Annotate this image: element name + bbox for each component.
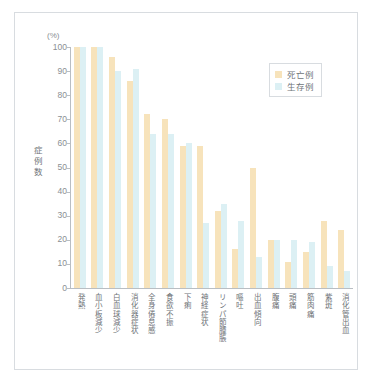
x-axis-tick-label: 発熱 xyxy=(74,293,85,310)
y-axis-tick-label: 60 xyxy=(45,138,67,148)
x-axis-tick-label: 全身倦怠感 xyxy=(145,293,156,335)
bar-alive xyxy=(274,240,280,288)
chart-plot-area: (%) 症例数 0102030405060708090100 発熱血小板減少白血… xyxy=(15,13,359,371)
x-axis-tick-label: 消化管出血 xyxy=(339,293,350,335)
y-axis-tick-label: 100 xyxy=(45,42,67,52)
y-axis-tick-mark xyxy=(66,264,70,265)
bar-alive xyxy=(168,134,174,288)
y-axis-tick-mark xyxy=(66,119,70,120)
chart-legend: 死亡例 生存例 xyxy=(269,63,322,97)
y-axis-tick-mark xyxy=(66,71,70,72)
bar-group xyxy=(127,47,139,288)
legend-item-alive: 生存例 xyxy=(275,80,314,92)
y-axis-tick-label: 50 xyxy=(45,162,67,172)
bar-alive xyxy=(256,257,262,288)
x-axis-tick-label: 神経症状 xyxy=(198,293,209,326)
bar-alive xyxy=(327,266,333,288)
bar-alive xyxy=(309,242,315,288)
y-axis-tick-label: 20 xyxy=(45,234,67,244)
bar-alive xyxy=(238,221,244,288)
y-axis-unit-label: (%) xyxy=(47,31,59,40)
bar-group xyxy=(91,47,103,288)
bar-group xyxy=(180,47,192,288)
legend-label-alive: 生存例 xyxy=(287,80,314,92)
bar-group xyxy=(232,47,244,288)
chart-figure: (%) 症例数 0102030405060708090100 発熱血小板減少白血… xyxy=(14,12,358,370)
bar-group xyxy=(197,47,209,288)
y-axis-tick-mark xyxy=(66,288,70,289)
x-axis-tick-label: 腹痛 xyxy=(268,293,279,310)
bar-alive xyxy=(291,240,297,288)
x-axis-tick-label: 嘔吐 xyxy=(233,293,244,310)
y-axis-tick-mark xyxy=(66,95,70,96)
y-axis-title: 症例数 xyxy=(32,145,44,178)
y-axis-tick-label: 10 xyxy=(45,258,67,268)
bar-alive xyxy=(133,69,139,288)
y-axis-tick-mark xyxy=(66,192,70,193)
bar-alive xyxy=(115,71,121,288)
x-axis-labels: 発熱血小板減少白血球減少消化器症状全身倦怠感食欲不振下痢神経症状リンパ節腫脹嘔吐… xyxy=(71,293,355,371)
x-axis-tick-label: 血小板減少 xyxy=(92,293,103,335)
x-axis-tick-label: リンパ節腫脹 xyxy=(215,293,226,343)
bar-alive xyxy=(150,134,156,288)
y-axis-tick-label: 0 xyxy=(45,283,67,293)
x-axis-tick-label: 紫斑 xyxy=(321,293,332,310)
bar-alive xyxy=(221,204,227,288)
y-axis-tick-label: 40 xyxy=(45,186,67,196)
x-axis-line xyxy=(70,288,353,289)
legend-swatch-dead xyxy=(275,71,282,78)
x-axis-tick-label: 食欲不振 xyxy=(162,293,173,326)
legend-swatch-alive xyxy=(275,83,282,90)
bar-alive xyxy=(203,223,209,288)
bar-group xyxy=(74,47,86,288)
bar-group xyxy=(215,47,227,288)
bar-group xyxy=(338,47,350,288)
bar-alive xyxy=(80,47,86,288)
x-axis-tick-label: 出血傾向 xyxy=(251,293,262,326)
y-axis-tick-mark xyxy=(66,216,70,217)
y-axis-tick-label: 80 xyxy=(45,90,67,100)
bar-group xyxy=(144,47,156,288)
y-axis-tick-mark xyxy=(66,240,70,241)
x-axis-tick-label: 下痢 xyxy=(180,293,191,310)
y-axis-tick-label: 70 xyxy=(45,114,67,124)
legend-label-dead: 死亡例 xyxy=(287,68,314,80)
bar-group xyxy=(321,47,333,288)
bar-group xyxy=(109,47,121,288)
y-axis-tick-label: 90 xyxy=(45,66,67,76)
x-axis-tick-label: 頭痛 xyxy=(286,293,297,310)
bar-group xyxy=(250,47,262,288)
bar-alive xyxy=(344,271,350,288)
x-axis-tick-label: 消化器症状 xyxy=(127,293,138,335)
bar-group xyxy=(162,47,174,288)
y-axis-tick-mark xyxy=(66,168,70,169)
legend-item-dead: 死亡例 xyxy=(275,68,314,80)
bar-alive xyxy=(186,143,192,288)
x-axis-tick-label: 白血球減少 xyxy=(110,293,121,335)
y-axis-tick-mark xyxy=(66,47,70,48)
bar-alive xyxy=(97,47,103,288)
x-axis-tick-label: 筋肉痛 xyxy=(303,293,314,318)
y-axis-tick-mark xyxy=(66,143,70,144)
y-axis-tick-label: 30 xyxy=(45,210,67,220)
